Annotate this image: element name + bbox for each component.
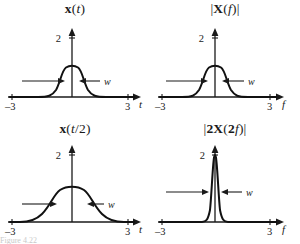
figure-fourier-scaling: x(t) w 2 –3 3 t [0,0,300,244]
width-arrow-right-head [222,78,229,84]
x-axis-var-label: t [139,223,143,235]
width-arrow-right-head [79,78,86,84]
x-min-label: –3 [4,101,16,112]
y-tick-label-2: 2 [56,150,61,161]
width-label: w [248,76,255,87]
panel-bottom-left: x(t/2) w 2 –3 3 t [0,120,150,242]
y-axis-arrowhead [69,28,76,36]
x-axis-var-label: f [282,98,287,110]
y-tick-label-2: 2 [200,150,205,161]
plot-bottom-left: w 2 –3 3 t [0,120,150,242]
x-min-label: –3 [154,101,166,112]
width-arrow-right-head [87,201,94,207]
width-label: w [246,187,253,198]
panel-top-right: |X(f)| w 2 –3 3 f [150,0,300,122]
width-label: w [104,76,111,87]
x-max-label: 3 [125,101,130,112]
x-max-label: 3 [267,101,272,112]
panel-bottom-right: |2X(2f)| w 2 –3 3 f [150,120,300,242]
width-arrow-left-head [201,78,208,84]
width-arrow-left-head [202,189,209,195]
curve-mag-2X-of-2f [160,155,276,222]
width-arrow-left-head [58,78,65,84]
plot-top-right: w 2 –3 3 f [150,0,300,122]
panel-top-left: x(t) w 2 –3 3 t [0,0,150,122]
width-arrow-left-head [50,201,57,207]
y-tick-label-2: 2 [56,33,61,44]
plot-bottom-right: w 2 –3 3 f [150,120,300,242]
x-axis-var-label: f [282,223,287,235]
y-axis-arrowhead [212,28,219,36]
y-tick-label-2: 2 [199,33,204,44]
plot-top-left: w 2 –3 3 t [0,0,150,122]
y-axis-arrowhead [69,145,76,153]
y-axis-arrowhead [212,145,219,153]
x-axis-var-label: t [139,98,143,110]
width-arrow-right-head [221,189,228,195]
figure-caption-partial: Figure 4.22 [0,236,300,244]
width-label: w [108,199,115,210]
